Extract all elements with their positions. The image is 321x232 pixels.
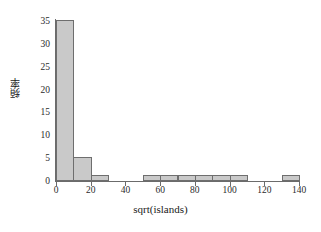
histogram-bar <box>230 175 248 181</box>
x-axis-tick-label: 120 <box>249 185 279 196</box>
y-axis-tick-label: 20 <box>24 85 50 95</box>
histogram-bar <box>178 175 196 181</box>
x-axis-tick-label: 80 <box>180 185 210 196</box>
y-axis-tick-label: 5 <box>24 153 50 163</box>
y-axis-tick-label: 15 <box>24 107 50 117</box>
y-axis-title: 頻率 <box>8 78 22 98</box>
histogram-bar <box>282 175 300 181</box>
x-axis-tick-label: 20 <box>76 185 106 196</box>
histogram-bar <box>195 175 213 181</box>
x-axis-tick-label: 60 <box>145 185 175 196</box>
histogram-figure: 05101520253035 020406080100120140 sqrt(i… <box>0 0 321 232</box>
plot-area <box>56 21 299 181</box>
histogram-bar <box>91 175 109 181</box>
x-axis-tick-label: 140 <box>284 185 314 196</box>
y-axis-tick-label: 10 <box>24 130 50 140</box>
y-axis-tick-label: 30 <box>24 39 50 49</box>
x-axis-title: sqrt(islands) <box>0 203 321 215</box>
y-axis-tick-label: 35 <box>24 16 50 26</box>
x-axis-tick-label: 40 <box>110 185 140 196</box>
histogram-bar <box>73 157 91 181</box>
histogram-bar <box>212 175 230 181</box>
x-axis-tick-label: 0 <box>41 185 71 196</box>
histogram-bar <box>143 175 161 181</box>
y-axis-tick-label: 25 <box>24 62 50 72</box>
x-axis-line <box>55 181 300 182</box>
histogram-bar <box>56 20 74 181</box>
x-axis-tick-label: 100 <box>215 185 245 196</box>
histogram-bar <box>160 175 178 181</box>
